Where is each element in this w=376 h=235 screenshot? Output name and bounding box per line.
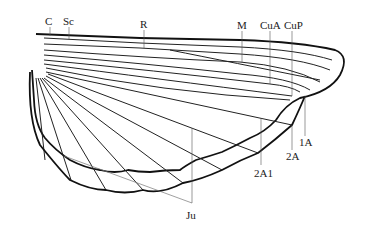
- label-cua: CuA: [260, 19, 281, 31]
- label-m: M: [237, 19, 247, 31]
- label-cup: CuP: [284, 19, 303, 31]
- anal-vein-6: [40, 78, 106, 190]
- label-c: C: [45, 15, 52, 27]
- label-ju: Ju: [186, 209, 196, 221]
- wing-venation-figure: C Sc R M CuA CuP 1A 2A 2A1 Ju: [0, 0, 376, 235]
- anal-vein-7: [38, 78, 71, 180]
- vein-r: [44, 44, 330, 70]
- vein-sc: [44, 38, 332, 60]
- jugal-line: [64, 156, 192, 203]
- label-2a1: 2A1: [254, 167, 273, 179]
- anal-vein-4: [44, 78, 183, 183]
- label-sc: Sc: [63, 15, 74, 27]
- anal-vein-5: [42, 78, 143, 190]
- wing-diagram: C Sc R M CuA CuP 1A 2A 2A1 Ju: [0, 0, 376, 235]
- anal-vein-3: [46, 76, 222, 170]
- label-r: R: [140, 18, 148, 30]
- vein-2a1: [48, 74, 258, 153]
- vein-m1: [44, 50, 320, 82]
- label-1a: 1A: [299, 136, 313, 148]
- label-2a: 2A: [286, 150, 300, 162]
